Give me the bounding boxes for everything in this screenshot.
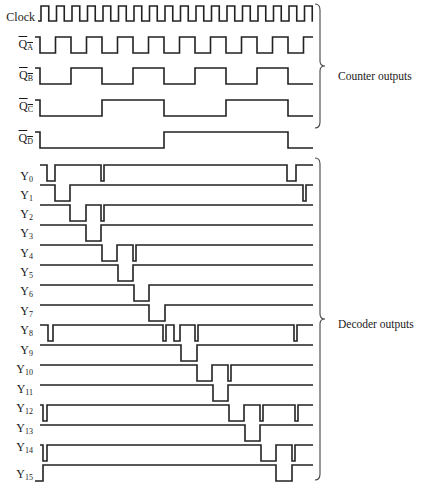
y0-label-text: Y0: [20, 169, 33, 183]
label-subscript: 0: [29, 175, 33, 184]
label-subscript: B: [28, 74, 33, 83]
qa-bar-label-text: QA: [19, 37, 33, 51]
counter-outputs-label: Counter outputs: [338, 70, 412, 82]
group-braces: [315, 4, 325, 480]
label-subscript: 10: [25, 368, 33, 377]
y0-label: Y0: [20, 170, 33, 184]
y4-label-text: Y4: [20, 246, 33, 260]
y3-label: Y3: [20, 227, 33, 241]
y2-label-text: Y2: [20, 207, 33, 221]
y10-label-text: Y10: [16, 362, 33, 376]
y11-label: Y11: [17, 383, 33, 397]
qd-bar-waveform: [35, 132, 313, 148]
y0-waveform: [40, 165, 313, 181]
label-main: Y: [20, 304, 29, 318]
label-main: Y: [20, 226, 29, 240]
clock-label: Clock: [6, 11, 35, 23]
label-subscript: A: [27, 43, 33, 52]
y14-label-text: Y14: [16, 440, 33, 454]
brace-decoder: [315, 158, 325, 480]
label-subscript: 2: [29, 213, 33, 222]
y15-label: Y15: [16, 468, 33, 482]
y13-label: Y13: [16, 422, 33, 436]
y13-label-text: Y13: [16, 421, 33, 435]
y1-label: Y1: [20, 189, 33, 203]
qb-bar-label-text: QB: [19, 68, 33, 82]
label-main: Y: [20, 246, 29, 260]
label-main: Y: [20, 188, 29, 202]
qd-bar-label: QD: [19, 132, 33, 146]
label-main: Y: [20, 284, 29, 298]
label-subscript: 15: [25, 473, 33, 482]
qb-bar-label: QB: [19, 69, 33, 83]
label-main: Q: [19, 68, 28, 82]
label-subscript: 1: [29, 194, 33, 203]
y11-waveform: [40, 385, 313, 401]
y10-label: Y10: [16, 363, 33, 377]
y7-label: Y7: [20, 305, 33, 319]
label-main: Y: [20, 169, 29, 183]
y14-waveform: [40, 445, 313, 461]
label-main: Y: [16, 421, 25, 435]
label-main: Y: [17, 382, 26, 396]
label-subscript: 4: [29, 252, 33, 261]
label-subscript: 5: [29, 271, 33, 280]
label-subscript: 13: [25, 427, 33, 436]
y5-label-text: Y5: [20, 265, 33, 279]
y4-waveform: [40, 245, 313, 261]
label-subscript: C: [28, 105, 33, 114]
y3-label-text: Y3: [20, 226, 33, 240]
y10-waveform: [40, 365, 313, 381]
y7-label-text: Y7: [20, 304, 33, 318]
y8-waveform: [40, 325, 313, 341]
y6-label: Y6: [20, 285, 33, 299]
label-subscript: 6: [29, 290, 33, 299]
label-subscript: 14: [25, 446, 33, 455]
clock-waveform: [38, 6, 313, 21]
label-main: Y: [20, 207, 29, 221]
y6-label-text: Y6: [20, 284, 33, 298]
y14-label: Y14: [16, 441, 33, 455]
y2-label: Y2: [20, 208, 33, 222]
y3-waveform: [40, 225, 313, 241]
label-main: Y: [16, 401, 25, 415]
label-main: Y: [16, 467, 25, 481]
y12-label-text: Y12: [16, 401, 33, 415]
qd-bar-label-text: QD: [19, 131, 33, 145]
label-main: Y: [16, 362, 25, 376]
y15-waveform: [35, 465, 313, 481]
qb-bar-waveform: [35, 68, 313, 84]
qc-bar-label-text: QC: [19, 99, 33, 113]
y8-label-text: Y8: [20, 323, 33, 337]
y9-label-text: Y9: [20, 343, 33, 357]
y12-label: Y12: [16, 402, 33, 416]
brace-counter: [315, 4, 325, 128]
y2-waveform: [40, 205, 313, 221]
y1-waveform: [40, 185, 313, 201]
y1-label-text: Y1: [20, 188, 33, 202]
y5-label: Y5: [20, 266, 33, 280]
label-subscript: 9: [29, 349, 33, 358]
y8-label: Y8: [20, 324, 33, 338]
qc-bar-label: QC: [19, 100, 33, 114]
label-main: Y: [16, 440, 25, 454]
label-main: Y: [20, 343, 29, 357]
y13-waveform: [40, 425, 313, 441]
y9-label: Y9: [20, 344, 33, 358]
label-main: Y: [20, 323, 29, 337]
label-subscript: 7: [29, 310, 33, 319]
label-main: Y: [20, 265, 29, 279]
qc-bar-waveform: [35, 100, 313, 116]
y12-waveform: [40, 405, 313, 421]
label-main: Q: [19, 99, 28, 113]
qa-bar-label: QA: [19, 38, 33, 52]
y6-waveform: [40, 285, 313, 301]
label-main: Q: [19, 131, 28, 145]
label-subscript: 3: [29, 232, 33, 241]
label-subscript: 8: [29, 329, 33, 338]
label-subscript: D: [27, 137, 33, 146]
y9-waveform: [40, 345, 313, 361]
y4-label: Y4: [20, 247, 33, 261]
waveforms: [35, 6, 313, 481]
label-subscript: 12: [25, 407, 33, 416]
